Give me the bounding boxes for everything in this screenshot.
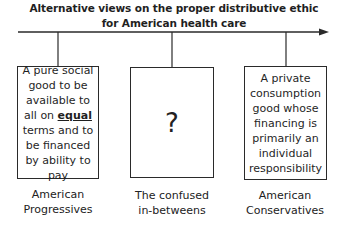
in-betweens-box: ? bbox=[130, 67, 214, 178]
label-in-betweens: The confused in-betweens bbox=[122, 188, 222, 218]
label-progressives: American Progressives bbox=[8, 187, 108, 217]
conservatives-box: A private consumption good whose financi… bbox=[244, 66, 327, 180]
progressives-box: A pure social good to be available to al… bbox=[17, 66, 99, 179]
label-conservatives: American Conservatives bbox=[230, 188, 340, 218]
conservatives-description: A private consumption good whose financi… bbox=[248, 71, 324, 176]
axis-arrowhead bbox=[319, 29, 329, 36]
emphasis-equal: equal bbox=[58, 109, 92, 122]
progressives-description: A pure social good to be available to al… bbox=[20, 63, 96, 183]
question-mark: ? bbox=[165, 108, 179, 138]
